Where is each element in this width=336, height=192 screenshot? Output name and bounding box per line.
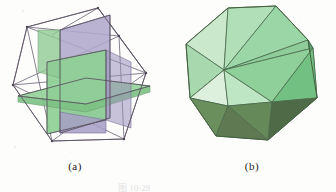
scan-speckle [14,146,16,148]
green-wedge-upper-left [38,30,60,78]
figure-panel-b [168,0,336,160]
scan-speckle [300,18,301,19]
icosahedron-diagram [168,0,336,160]
golden-rectangles-octahedron-diagram [0,0,168,160]
icosahedron-faces [186,6,317,140]
figure-page: (a) (b) 图 10-28 [0,0,336,192]
panel-b-label: (b) [222,160,282,172]
scan-speckle [70,152,71,153]
figure-panel-a [0,0,168,160]
figure-caption: 图 10-28 [118,181,150,192]
scan-speckle [22,10,24,12]
panel-a-label: (a) [45,160,105,172]
